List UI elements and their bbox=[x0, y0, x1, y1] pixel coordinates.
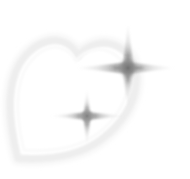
heart-shape bbox=[11, 41, 137, 159]
artwork-svg bbox=[0, 0, 190, 179]
artwork-canvas bbox=[0, 0, 190, 179]
sparkle-large-core-glow bbox=[115, 55, 141, 81]
sparkle-small-core-glow bbox=[78, 107, 96, 125]
